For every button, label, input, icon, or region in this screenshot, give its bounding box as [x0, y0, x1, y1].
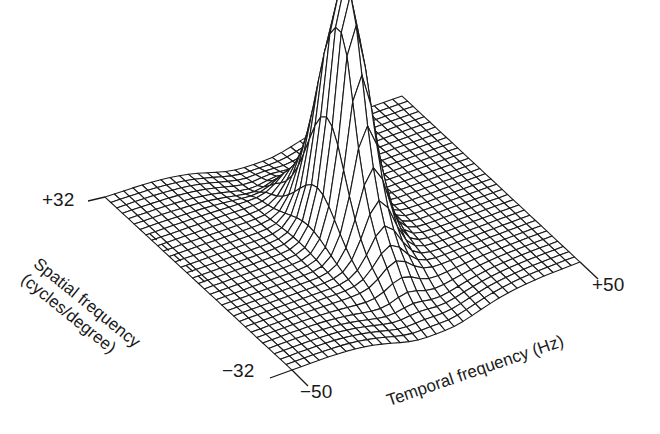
- temporal-max-label: +50: [592, 274, 624, 296]
- surface-plot: [0, 0, 660, 434]
- spatial-min-tick: [270, 370, 292, 378]
- spatial-max-label: +32: [42, 189, 74, 211]
- temporal-min-label: −50: [300, 381, 332, 403]
- wireframe-mesh: [105, 0, 580, 370]
- spatial-min-label: −32: [222, 360, 254, 382]
- spatial-max-tick: [88, 197, 105, 201]
